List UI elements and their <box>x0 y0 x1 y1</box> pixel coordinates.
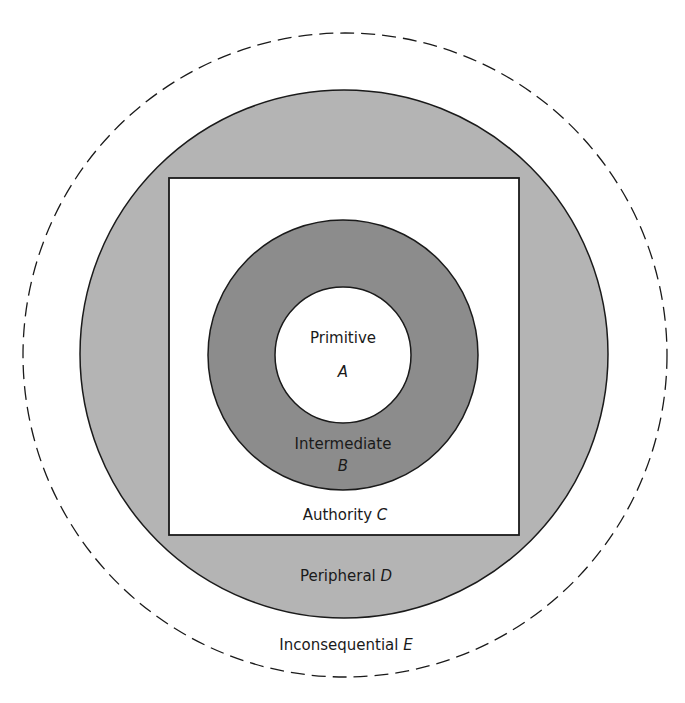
primitive-zone <box>275 287 411 423</box>
authority-letter: C <box>377 506 388 524</box>
primitive-letter: A <box>337 363 348 381</box>
primitive-label: Primitive <box>310 329 376 347</box>
authority-name: Authority <box>303 506 373 524</box>
nested-zone-diagram: Primitive A Intermediate B Authority C P… <box>0 0 685 703</box>
peripheral-letter: D <box>381 567 393 585</box>
inconsequential-name: Inconsequential <box>279 636 398 654</box>
inconsequential-letter: E <box>403 636 413 654</box>
inconsequential-label: Inconsequential E <box>279 636 413 654</box>
peripheral-name: Peripheral <box>300 567 376 585</box>
peripheral-label: Peripheral D <box>300 567 392 585</box>
intermediate-label: Intermediate <box>295 435 392 453</box>
authority-label: Authority C <box>303 506 388 524</box>
intermediate-letter: B <box>338 457 348 475</box>
